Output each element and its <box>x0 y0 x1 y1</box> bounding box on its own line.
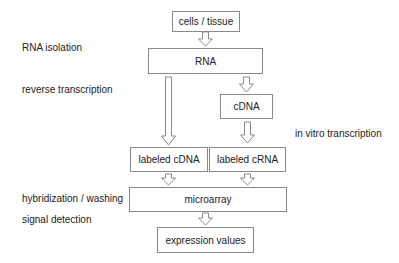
box-labeled-crna: labeled cRNA <box>209 147 286 172</box>
arrows-layer <box>0 0 399 263</box>
box-cdna-text: cDNA <box>233 101 259 112</box>
arrow-rna-to-cdna <box>240 77 254 92</box>
box-labeled-cdna-text: labeled cDNA <box>138 154 199 165</box>
arrow-microarray-to-expression <box>199 213 213 225</box>
arrow-labeled-crna-to-microarray <box>241 174 255 185</box>
box-cells-tissue-text: cells / tissue <box>179 16 233 27</box>
box-rna: RNA <box>148 48 263 74</box>
box-labeled-cdna: labeled cDNA <box>130 147 208 172</box>
box-microarray-text: microarray <box>184 194 231 205</box>
arrow-labeled-cdna-to-microarray <box>162 174 176 185</box>
box-labeled-crna-text: labeled cRNA <box>217 154 278 165</box>
arrow-rna-to-labeled-cdna <box>162 77 176 145</box>
arrow-cdna-to-labeled-crna <box>241 122 255 143</box>
box-cells-tissue: cells / tissue <box>172 11 240 32</box>
box-cdna: cDNA <box>220 94 273 119</box>
box-expression-values: expression values <box>157 227 254 253</box>
arrow-cells-to-rna <box>199 32 213 46</box>
box-expression-values-text: expression values <box>165 235 245 246</box>
box-rna-text: RNA <box>195 56 216 67</box>
box-microarray: microarray <box>129 187 287 212</box>
